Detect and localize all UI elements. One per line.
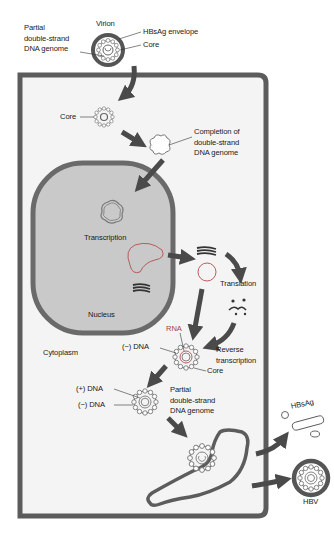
label-plus-dna: (+) DNA [76, 384, 103, 395]
label-core-rt: Core [207, 366, 223, 377]
label-partial-genome-bottom: Partial double-strand DNA genome [170, 385, 215, 417]
nucleus [33, 163, 173, 333]
label-transcription: Transcription [84, 233, 126, 244]
label-core-top: Core [143, 40, 159, 51]
label-hbsag-envelope: HBsAg envelope [143, 27, 198, 38]
label-minus-dna-1: (−) DNA [122, 342, 149, 353]
label-partial-genome-top: Partial double-strand DNA genome [24, 23, 69, 55]
hbv-lifecycle-diagram [0, 0, 334, 538]
label-translation: Translation [220, 279, 256, 290]
completed-genome-icon [150, 135, 170, 154]
label-core-cytoplasm: Core [60, 112, 76, 123]
label-cytoplasm: Cytoplasm [43, 348, 78, 359]
label-rna: RNA [166, 324, 182, 335]
label-hbv: HBV [303, 497, 318, 508]
label-virion: Virion [96, 19, 115, 30]
label-completion: Completion of double-strand DNA genome [194, 127, 240, 159]
label-reverse-transcription: Reverse transcription [216, 345, 256, 366]
hbv-particle-icon [294, 461, 328, 495]
hbsag-particles-icon [282, 412, 325, 438]
label-nucleus: Nucleus [88, 310, 115, 321]
export-arrow [168, 255, 188, 258]
virion-icon [93, 35, 123, 65]
label-minus-dna-2: (−) DNA [78, 400, 105, 411]
